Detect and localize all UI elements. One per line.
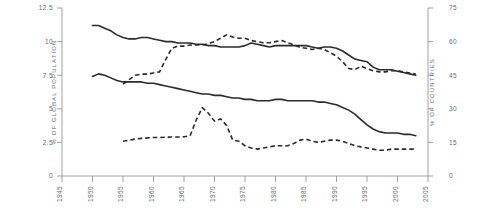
left-axis-title: % OF GLOBAL POPULATION <box>51 40 57 145</box>
right-tick-label: 60 <box>449 38 457 45</box>
right-tick-label: 75 <box>449 4 457 11</box>
series-line-global-population-upper <box>93 25 416 75</box>
right-axis: 01530456075 % OF COUNTRIES <box>428 4 457 179</box>
x-axis-ticks: 1945195019551960196519701975198019851990… <box>56 176 429 202</box>
series-line-global-population-lower <box>93 74 416 136</box>
x-tick-label: 1975 <box>239 186 246 202</box>
x-tick-label: 1990 <box>331 186 338 202</box>
x-tick-label: 1985 <box>300 186 307 202</box>
x-tick-label: 1980 <box>270 186 277 202</box>
right-tick-label: 0 <box>449 172 453 179</box>
x-tick-label: 1955 <box>117 186 124 202</box>
left-axis: 02.557.51012.5 % OF GLOBAL POPULATION <box>39 4 62 179</box>
right-tick-label: 45 <box>449 72 457 79</box>
x-tick-label: 1970 <box>209 186 216 202</box>
chart-container: 02.557.51012.5 % OF GLOBAL POPULATION 01… <box>0 0 480 216</box>
left-tick-label: 12.5 <box>39 4 53 11</box>
x-axis: 1945195019551960196519701975198019851990… <box>56 176 429 202</box>
left-tick-label: 0 <box>49 172 53 179</box>
x-tick-label: 2005 <box>422 186 429 202</box>
x-tick-label: 1960 <box>148 186 155 202</box>
right-tick-label: 15 <box>449 139 457 146</box>
line-chart: 02.557.51012.5 % OF GLOBAL POPULATION 01… <box>0 0 480 216</box>
series-group <box>93 25 416 150</box>
x-tick-label: 1995 <box>361 186 368 202</box>
x-tick-label: 1965 <box>178 186 185 202</box>
x-tick-label: 1950 <box>87 186 94 202</box>
right-axis-title: % OF COUNTRIES <box>429 58 435 126</box>
right-tick-label: 30 <box>449 105 457 112</box>
x-tick-label: 1945 <box>56 186 63 202</box>
x-tick-label: 2000 <box>392 186 399 202</box>
